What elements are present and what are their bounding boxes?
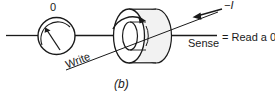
magnetic-core-torus <box>113 9 172 63</box>
current-direction-arrowhead <box>193 13 202 20</box>
bit-value-label: 0 <box>50 2 56 13</box>
current-label: −I <box>224 0 233 11</box>
read-result-label: = Read a 0 <box>222 32 275 43</box>
meter-body-circle <box>38 18 75 55</box>
sense-amplifier-meter <box>38 18 75 55</box>
core-memory-illustration <box>0 0 275 100</box>
figure-magnetic-core-read: 0 Write Sense −I = Read a 0 (b) <box>0 0 275 100</box>
figure-caption: (b) <box>114 78 129 90</box>
sense-line-label: Sense <box>188 38 219 49</box>
